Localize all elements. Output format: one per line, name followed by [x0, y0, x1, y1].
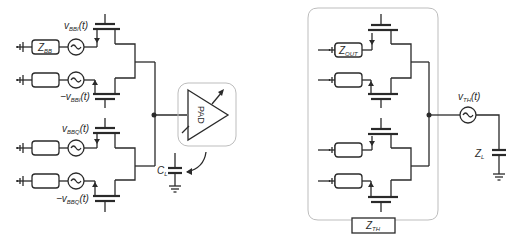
ground-icon: [318, 75, 335, 85]
svg-text:ZL: ZL: [474, 148, 484, 160]
ac-source-icon: [68, 39, 84, 55]
ac-source-icon: [68, 72, 84, 88]
svg-text:PAD: PAD: [196, 106, 206, 124]
arrow-icon: [94, 38, 100, 43]
left-circuit: ZBB vBBI(t): [16, 14, 236, 212]
right-circuit: ZOUT: [308, 8, 506, 233]
impedance-box: [32, 174, 59, 188]
impedance-box: [32, 73, 59, 87]
svg-text:−vBBQ(t): −vBBQ(t): [56, 193, 89, 205]
branch-q-minus: −vBBQ(t): [16, 173, 120, 212]
right-branch-2: [318, 73, 398, 108]
svg-text:vBBQ(t): vBBQ(t): [62, 123, 89, 135]
transistor: [93, 180, 120, 212]
ground-icon: [318, 176, 335, 186]
impedance-box: [335, 73, 362, 87]
ground-icon: [318, 145, 335, 155]
transistor: [93, 78, 120, 108]
ground-icon: [16, 176, 23, 186]
right-branch-3: [318, 118, 398, 157]
ac-source-icon: [68, 140, 84, 156]
branch-i-minus: −vBBI(t): [16, 72, 120, 108]
arrow-icon: [92, 80, 98, 85]
ground-icon: [16, 75, 23, 85]
right-branch-1: ZOUT: [318, 14, 398, 57]
ac-source-icon: [68, 173, 84, 189]
circuit-diagram: ZBB vBBI(t): [0, 0, 519, 244]
ground-icon: [16, 42, 23, 52]
branch-q-plus: vBBQ(t): [16, 118, 120, 156]
svg-text:vTH(t): vTH(t): [458, 91, 480, 103]
arrow-icon: [92, 182, 98, 187]
load-impedance: [492, 150, 506, 180]
svg-text:−vBBI(t): −vBBI(t): [60, 91, 90, 103]
thevenin-group: [308, 8, 438, 220]
load-capacitor: CL: [157, 152, 206, 192]
ground-icon: [16, 143, 23, 153]
svg-text:vBBI(t): vBBI(t): [64, 20, 88, 32]
impedance-box: [335, 174, 362, 188]
arrow-icon: [94, 139, 100, 144]
ac-source-icon: [460, 107, 476, 123]
impedance-box: [32, 141, 59, 155]
curved-arrow: [187, 152, 206, 172]
ground-icon: [318, 45, 335, 55]
impedance-box: [335, 143, 362, 157]
branch-i-plus: ZBB vBBI(t): [16, 14, 120, 55]
svg-text:CL: CL: [157, 165, 168, 177]
right-branch-4: [318, 174, 398, 212]
